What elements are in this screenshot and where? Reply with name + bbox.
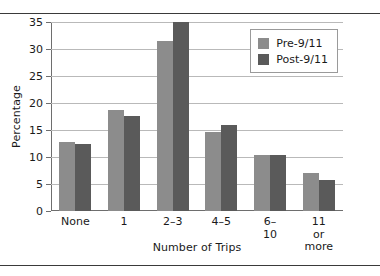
y-tick-label: 5 <box>36 179 43 190</box>
figure-bottom-rule <box>0 265 380 266</box>
bar-pre[interactable] <box>157 41 173 211</box>
x-tick-label: None <box>61 216 90 229</box>
y-tick-label: 30 <box>29 44 43 55</box>
bar-pre[interactable] <box>108 110 124 211</box>
bar-post[interactable] <box>124 116 140 211</box>
plot-area: 05101520253035 None12–34–56–1011 or more… <box>51 22 343 211</box>
bar-pre[interactable] <box>59 142 75 211</box>
bar-pre[interactable] <box>303 173 319 211</box>
y-tick-label: 20 <box>29 98 43 109</box>
bar-pre[interactable] <box>205 132 221 211</box>
y-tick-label: 35 <box>29 17 43 28</box>
x-axis-title: Number of Trips <box>51 241 343 254</box>
legend-label-pre: Pre-9/11 <box>276 37 322 50</box>
legend-item-pre: Pre-9/11 <box>258 35 328 51</box>
bar-post[interactable] <box>173 22 189 211</box>
legend-label-post: Post-9/11 <box>276 53 328 66</box>
x-tick-label: 4–5 <box>212 216 232 229</box>
y-tick-label: 15 <box>29 125 43 136</box>
bar-pre[interactable] <box>254 155 270 211</box>
x-tick-label: 2–3 <box>163 216 183 229</box>
x-tick-label: 11 or more <box>304 216 333 254</box>
x-tick-label: 6–10 <box>258 216 282 241</box>
legend-item-post: Post-9/11 <box>258 51 328 67</box>
bar-pair <box>148 22 197 211</box>
bar-post[interactable] <box>270 155 286 211</box>
legend-swatch-pre-icon <box>258 38 269 49</box>
y-tick-label: 0 <box>36 206 43 217</box>
bar-pair <box>100 22 149 211</box>
bar-post[interactable] <box>319 180 335 211</box>
bar-post[interactable] <box>221 125 237 211</box>
bar-pair <box>197 22 246 211</box>
bar-chart-figure: Percentage Number of Trips 0510152025303… <box>0 14 380 264</box>
x-tick-label: 1 <box>121 216 128 229</box>
bar-group: 1 <box>100 22 149 211</box>
y-tick-label: 10 <box>29 152 43 163</box>
bar-group: 2–3 <box>148 22 197 211</box>
legend-swatch-post-icon <box>258 54 269 65</box>
bar-group: None <box>51 22 100 211</box>
y-tick-label: 25 <box>29 71 43 82</box>
bar-post[interactable] <box>75 144 91 212</box>
chart-legend: Pre-9/11 Post-9/11 <box>250 29 338 73</box>
bar-pair <box>51 22 100 211</box>
bar-group: 4–5 <box>197 22 246 211</box>
y-axis-title: Percentage <box>10 62 23 172</box>
